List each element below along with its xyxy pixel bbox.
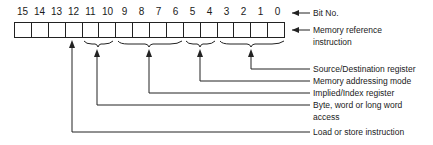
field-label-byte-word-line2: access bbox=[313, 112, 339, 122]
leader-implied-index bbox=[149, 56, 310, 93]
register-label-line1: Memory reference bbox=[313, 25, 382, 35]
brace-bits-3-0 bbox=[220, 41, 284, 47]
field-label-addressing-mode: Memory addressing mode bbox=[313, 76, 411, 86]
arrowhead-up-icon bbox=[248, 49, 254, 57]
arrowhead-up-icon bbox=[146, 49, 152, 57]
brace-bits-5-4 bbox=[186, 41, 215, 47]
arrowhead-up-icon bbox=[197, 49, 203, 57]
arrowhead-up-icon bbox=[94, 49, 100, 57]
field-label-byte-word-line1: Byte, word or long word bbox=[313, 100, 402, 110]
register-arrowhead-icon bbox=[292, 27, 299, 33]
field-label-implied-index: Implied/Index register bbox=[313, 88, 394, 98]
leader-source-destination bbox=[251, 56, 310, 69]
arrowhead-up-icon bbox=[69, 40, 75, 48]
field-label-load-store: Load or store instruction bbox=[313, 127, 404, 137]
bit-no-arrowhead-icon bbox=[292, 10, 299, 16]
brace-bits-11-10 bbox=[84, 41, 113, 47]
leader-load-store bbox=[72, 48, 310, 132]
field-label-source-destination: Source/Destination register bbox=[313, 64, 416, 74]
bit-no-label: Bit No. bbox=[313, 8, 339, 18]
brace-bits-9-6 bbox=[118, 41, 182, 47]
register-label-line2: instruction bbox=[313, 37, 352, 47]
